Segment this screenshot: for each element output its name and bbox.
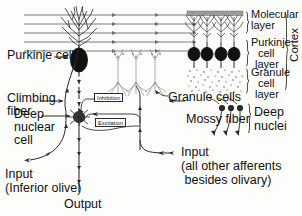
label-input-inferior-olive-line2: (Inferior olive) <box>5 182 81 196</box>
label-deep-nuclei-line2: nuclei <box>254 120 287 134</box>
label-input-inferior-olive-line1: Input <box>5 168 33 182</box>
label-output: Output <box>64 198 102 212</box>
input-other-afferents-path <box>140 140 174 155</box>
label-purkinje-cell: Purkinje cell <box>7 49 74 63</box>
label-mossy-fiber: Mossy fiber <box>186 113 250 127</box>
label-granule-cells: Granule cells <box>168 91 241 105</box>
granule-cell-bundles <box>108 49 166 96</box>
figure-canvas: Purkinje cell Climbing fiber Deep nuclea… <box>0 0 302 216</box>
label-input-other-line1: Input <box>181 146 209 160</box>
parallel-fibers-group <box>24 13 196 53</box>
label-deep-nuclear-cell-line3: cell <box>14 134 33 148</box>
tag-inhibition: Inhibition <box>94 93 123 102</box>
tag-excitation: Excitation <box>95 118 126 127</box>
label-granule-layer-line3: layer <box>255 89 279 101</box>
label-leader-lines <box>40 57 185 116</box>
label-deep-nuclei-line1: Deep <box>254 106 284 120</box>
label-cortex-bracket: Cortex <box>288 28 300 62</box>
label-input-other-line2: (all other afferents <box>181 160 282 174</box>
label-input-other-line3: besides olivary) <box>181 174 271 188</box>
inhibition-loop <box>78 99 95 113</box>
mossy-fiber-path <box>136 86 142 150</box>
